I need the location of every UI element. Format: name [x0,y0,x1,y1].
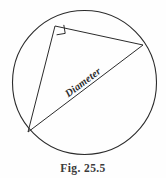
chord-top-to-left [28,26,55,132]
diameter-line [28,45,143,132]
chord-top-to-right [55,26,143,45]
figure-caption: Fig. 25.5 [0,162,166,174]
diameter-label: Diameter [62,65,103,100]
figure-container: Diameter Fig. 25.5 [0,0,166,178]
circle-geometry-diagram: Diameter [0,0,166,178]
